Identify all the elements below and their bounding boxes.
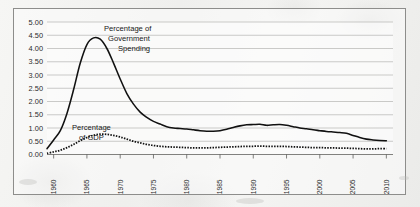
y-axis-tick-label: 1.00 — [29, 124, 43, 133]
x-axis-tick-label: 1990 — [250, 179, 257, 194]
x-axis-tick-label: 2005 — [349, 179, 356, 194]
annotation-line: Spending — [118, 44, 150, 53]
y-axis-tick-label: 4.00 — [29, 44, 43, 53]
x-axis-tick-labels: 1960196519701975198019851990199520002005… — [50, 179, 390, 194]
y-axis-tick-label: 3.00 — [29, 71, 43, 80]
annotation-line: Percentage — [72, 123, 111, 132]
x-axis-tick-label: 1980 — [183, 179, 190, 194]
y-axis-tick-label: 3.50 — [29, 57, 43, 66]
x-axis-tick-label: 1995 — [283, 179, 290, 194]
annotation-line: of GDP — [79, 133, 104, 142]
screenshot-root: 5.004.504.003.503.002.502.001.501.000.50… — [0, 0, 420, 207]
y-axis-tick-label: 0.00 — [29, 150, 43, 159]
line-chart: 5.004.504.003.503.002.502.001.501.000.50… — [0, 0, 420, 207]
x-axis-tick-label: 1985 — [216, 179, 223, 194]
annotation-line: Government — [108, 34, 151, 43]
x-axis-tick-label: 1965 — [83, 179, 90, 194]
x-axis-tick-label: 2010 — [383, 179, 390, 194]
y-axis-tick-label: 2.00 — [29, 97, 43, 106]
y-axis-tick-label: 2.50 — [29, 84, 43, 93]
y-axis-tick-label: 4.50 — [29, 31, 43, 40]
y-axis-tick-labels: 5.004.504.003.503.002.502.001.501.000.50… — [29, 18, 43, 160]
x-axis-tick-label: 2000 — [316, 179, 323, 194]
x-axis-tickmarks — [54, 155, 387, 159]
annotation-line: Percentage of — [104, 24, 152, 33]
y-axis-tick-label: 0.50 — [29, 137, 43, 146]
x-axis-tick-label: 1975 — [150, 179, 157, 194]
y-axis-tick-label: 1.50 — [29, 110, 43, 119]
y-axis-tick-label: 5.00 — [29, 18, 43, 27]
x-axis-tick-label: 1970 — [117, 179, 124, 194]
x-axis-tick-label: 1960 — [50, 179, 57, 194]
